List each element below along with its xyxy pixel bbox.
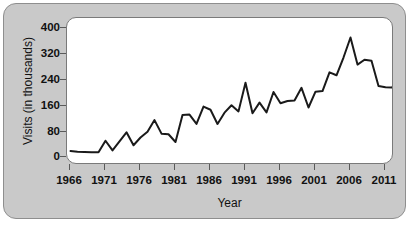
data-line-series	[67, 18, 393, 164]
chart-figure: 400 320 240 160 80 0	[0, 0, 413, 225]
x-tick-label-2011: 2011	[362, 174, 406, 186]
plot-area	[66, 17, 393, 164]
y-axis-title: Visits (in thousands)	[21, 11, 35, 171]
x-axis-title: Year	[66, 196, 393, 210]
